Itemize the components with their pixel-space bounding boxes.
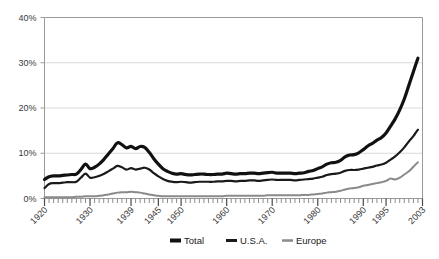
- series-lines: [45, 58, 418, 197]
- y-tick-label-10: 10%: [18, 148, 36, 158]
- line-chart: 0%10%20%30%40% 1920193019391945195019601…: [0, 0, 439, 259]
- legend-label-total: Total: [184, 235, 204, 246]
- series-line-total: [45, 58, 418, 179]
- x-tick-label-1920: 1920: [28, 205, 49, 226]
- x-tick-labels: 1920193019391945195019601970198019901995…: [28, 205, 427, 226]
- legend-marker-total: [170, 239, 181, 243]
- x-tick-label-1990: 1990: [347, 205, 368, 226]
- y-tick-label-40: 40%: [18, 13, 36, 23]
- x-tick-label-1960: 1960: [210, 205, 231, 226]
- y-tick-labels: 0%10%20%30%40%: [18, 13, 44, 204]
- x-tick-label-1980: 1980: [301, 205, 322, 226]
- series-line-usa: [45, 130, 418, 188]
- x-tick-label-1950: 1950: [165, 205, 186, 226]
- x-tick-label-1995: 1995: [370, 205, 391, 226]
- x-tick-label-2003: 2003: [406, 205, 427, 226]
- x-tick-label-1970: 1970: [256, 205, 277, 226]
- x-tick-label-1945: 1945: [142, 205, 163, 226]
- x-axis-ticks: [45, 199, 423, 207]
- x-tick-label-1930: 1930: [74, 205, 95, 226]
- series-line-europe: [45, 162, 418, 197]
- chart-container: 0%10%20%30%40% 1920193019391945195019601…: [0, 0, 439, 259]
- legend-marker-usa: [226, 239, 237, 242]
- y-tick-label-20: 20%: [18, 103, 36, 113]
- y-tick-label-0: 0%: [23, 194, 36, 204]
- legend-label-europe: Europe: [296, 235, 327, 246]
- y-tick-label-30: 30%: [18, 58, 36, 68]
- grid-lines: [45, 18, 423, 154]
- x-tick-label-1939: 1939: [115, 205, 136, 226]
- chart-legend: TotalU.S.A.Europe: [170, 235, 327, 246]
- legend-marker-europe: [282, 239, 293, 242]
- legend-label-usa: U.S.A.: [240, 235, 267, 246]
